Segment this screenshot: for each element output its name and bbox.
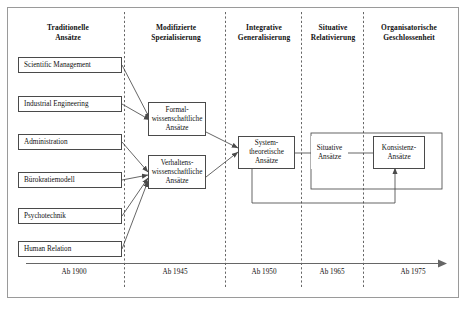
diagram-page: Traditionelle Ansätze Modifizierte Spezi…: [0, 0, 466, 314]
node-label-block: Formal- wissenschaftliche Ansätze: [152, 106, 203, 133]
node-label-line1: Verhaltens-: [152, 159, 203, 168]
timeline-arrowhead: [438, 260, 447, 268]
node-label-line1: Formal-: [152, 106, 203, 115]
node-label: Industrial Engineering: [24, 100, 88, 108]
column-header-line1: Traditionelle: [18, 23, 118, 33]
feedback-loop-path: [252, 168, 395, 203]
node-label: Administration: [24, 138, 68, 146]
node-label-block: Verhaltens- wissenschaftliche Ansätze: [152, 159, 203, 186]
node-label-line3: Ansätze: [249, 157, 284, 166]
column-header-traditionelle: Traditionelle Ansätze: [18, 23, 118, 42]
node-systemtheoretische-ansaetze[interactable]: System- theoretische Ansätze: [238, 136, 295, 169]
node-label-line1: System-: [249, 139, 284, 148]
column-header-line1: Situative: [303, 23, 363, 33]
node-konsistenz-ansaetze[interactable]: Konsistenz- Ansätze: [373, 136, 425, 169]
connector-scientific-to-formal: [122, 65, 150, 119]
connector-industrial-to-formal: [122, 104, 150, 120]
node-scientific-management[interactable]: Scientific Management: [18, 57, 122, 73]
connectors-to-system: [206, 132, 238, 177]
connector-verhaltens-to-system: [206, 152, 238, 177]
connectors-to-formal: [122, 65, 150, 120]
column-header-line1: Modifizierte: [130, 23, 222, 33]
node-label-line2: Ansätze: [317, 153, 343, 162]
column-header-line2: Ansätze: [18, 33, 118, 43]
connector-psychotechnik-to-verhaltens: [122, 178, 148, 216]
connector-formal-to-system: [206, 132, 238, 148]
node-label-block: Situative Ansätze: [317, 144, 343, 162]
column-header-organisatorische: Organisatorische Geschlossenheit: [366, 23, 452, 42]
connectors-to-verhaltens: [122, 142, 148, 249]
node-label-line3: Ansätze: [152, 124, 203, 133]
node-label-line2: wissenschaftliche: [152, 115, 203, 124]
column-header-line2: Generalisierung: [228, 33, 300, 43]
node-label: Scientific Management: [24, 61, 91, 69]
column-header-line2: Relativierung: [303, 33, 363, 43]
column-header-modifizierte: Modifizierte Spezialisierung: [130, 23, 222, 42]
timeline-label-1900: Ab 1900: [36, 268, 112, 276]
node-label-line3: Ansätze: [152, 177, 203, 186]
column-header-line2: Geschlossenheit: [366, 33, 452, 43]
connector-humanrelation-to-verhaltens: [122, 181, 148, 249]
node-situative-ansaetze[interactable]: Situative Ansätze: [311, 136, 348, 169]
node-label-line2: wissenschaftliche: [152, 168, 203, 177]
node-label-line2: Ansätze: [382, 153, 416, 162]
node-formalwissenschaftliche-ansaetze[interactable]: Formal- wissenschaftliche Ansätze: [148, 102, 206, 136]
node-label-line2: theoretische: [249, 148, 284, 157]
node-label: Psychotechnik: [24, 212, 66, 220]
node-label-block: System- theoretische Ansätze: [249, 139, 284, 166]
column-header-line1: Organisatorische: [366, 23, 452, 33]
timeline-label-1965: Ab 1965: [294, 268, 370, 276]
column-header-integrative: Integrative Generalisierung: [228, 23, 300, 42]
node-label-line1: Situative: [317, 144, 343, 153]
timeline-label-1975: Ab 1975: [375, 268, 451, 276]
node-verhaltenswissenschaftliche-ansaetze[interactable]: Verhaltens- wissenschaftliche Ansätze: [148, 155, 206, 189]
column-header-line1: Integrative: [228, 23, 300, 33]
column-header-line2: Spezialisierung: [130, 33, 222, 43]
connector-administration-to-verhaltens: [122, 142, 148, 172]
node-label-line1: Konsistenz-: [382, 144, 416, 153]
connector-buerokratie-to-verhaltens: [122, 175, 148, 180]
node-human-relation[interactable]: Human Relation: [18, 241, 122, 257]
timeline-label-1945: Ab 1945: [137, 268, 213, 276]
node-buerokratiemodell[interactable]: Bürokratiemodell: [18, 172, 122, 188]
timeline-label-1950: Ab 1950: [226, 268, 302, 276]
node-label: Bürokratiemodell: [24, 176, 75, 184]
node-label: Human Relation: [24, 245, 71, 253]
column-header-situative: Situative Relativierung: [303, 23, 363, 42]
node-psychotechnik[interactable]: Psychotechnik: [18, 208, 122, 224]
node-administration[interactable]: Administration: [18, 134, 122, 150]
node-label-block: Konsistenz- Ansätze: [382, 144, 416, 162]
node-industrial-engineering[interactable]: Industrial Engineering: [18, 96, 122, 112]
